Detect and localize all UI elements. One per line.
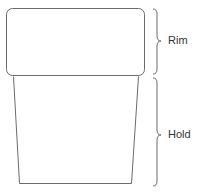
cup-diagram <box>0 0 199 195</box>
hold-label: Hold <box>168 128 191 140</box>
rim-brace-icon <box>153 9 161 74</box>
rim-shape <box>7 9 145 76</box>
hold-shape <box>14 77 139 184</box>
hold-brace-icon <box>153 78 161 186</box>
rim-label: Rim <box>168 34 188 46</box>
